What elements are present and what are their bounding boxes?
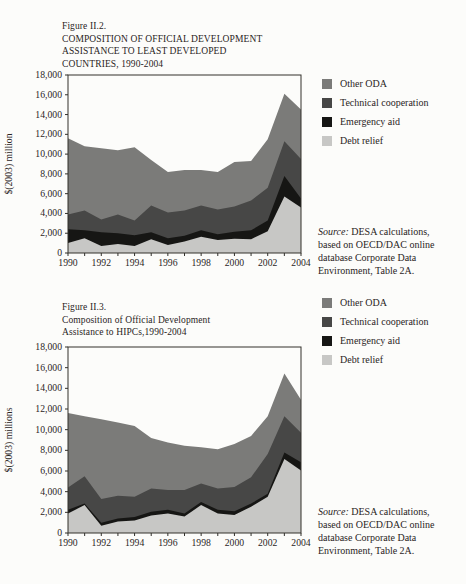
y-tick-label: 2,000 bbox=[40, 227, 62, 238]
x-tick-label: 2002 bbox=[258, 257, 278, 268]
legend-label: Emergency aid bbox=[340, 116, 400, 127]
y-tick-label: 8,000 bbox=[40, 444, 62, 455]
legend-item-other-oda: Other ODA bbox=[322, 297, 428, 308]
legend-label: Emergency aid bbox=[340, 335, 400, 346]
source-text: DESA calculations, bbox=[351, 226, 429, 237]
legend-item-debt-relief: Debt relief bbox=[322, 354, 428, 365]
source-line: Environment, Table 2A. bbox=[318, 264, 466, 277]
source-label: Source: bbox=[318, 506, 349, 517]
y-tick-label: 16,000 bbox=[35, 362, 62, 373]
figure2-legend: Other ODATechnical cooperationEmergency … bbox=[322, 78, 428, 146]
figure2-title-line: Figure II.2. bbox=[62, 20, 318, 33]
source-line: based on OECD/DAC online bbox=[318, 238, 466, 251]
y-tick-label: 12,000 bbox=[35, 403, 62, 414]
legend-swatch-icon bbox=[322, 117, 332, 127]
x-tick-label: 2000 bbox=[225, 257, 245, 268]
legend-item-other-oda: Other ODA bbox=[322, 78, 428, 89]
source-label: Source: bbox=[318, 226, 349, 237]
x-tick-label: 1994 bbox=[125, 537, 145, 548]
source-line: Source: DESA calculations, bbox=[318, 225, 466, 238]
x-tick-label: 2004 bbox=[291, 257, 311, 268]
x-tick-label: 1994 bbox=[125, 257, 145, 268]
x-tick-label: 2000 bbox=[225, 537, 245, 548]
legend-swatch-icon bbox=[322, 79, 332, 89]
scanned-report-page: { "page": { "background": "#fcfcfa", "te… bbox=[0, 0, 466, 584]
legend-item-technical-cooperation: Technical cooperation bbox=[322, 97, 428, 108]
source-line: Environment, Table 2A. bbox=[318, 544, 466, 557]
legend-label: Other ODA bbox=[340, 78, 387, 89]
figure3-source-note: Source: DESA calculations, based on OECD… bbox=[318, 505, 466, 557]
legend-label: Debt relief bbox=[340, 354, 383, 365]
legend-item-emergency-aid: Emergency aid bbox=[322, 116, 428, 127]
y-tick-label: 6,000 bbox=[40, 188, 62, 199]
y-tick-label: 2,000 bbox=[40, 506, 62, 517]
figure3-title-line: Composition of Official Development bbox=[62, 314, 318, 327]
x-tick-label: 1992 bbox=[92, 257, 112, 268]
legend-swatch-icon bbox=[322, 298, 332, 308]
legend-swatch-icon bbox=[322, 336, 332, 346]
y-tick-label: 10,000 bbox=[35, 424, 62, 435]
ldc-stacked-area-chart: 02,0004,0006,0008,00010,00012,00014,0001… bbox=[0, 60, 320, 275]
legend-swatch-icon bbox=[322, 355, 332, 365]
y-tick-label: 12,000 bbox=[35, 128, 62, 139]
x-tick-label: 1996 bbox=[158, 537, 178, 548]
source-line: database Corporate Data bbox=[318, 531, 466, 544]
y-tick-label: 10,000 bbox=[35, 148, 62, 159]
legend-label: Technical cooperation bbox=[340, 97, 428, 108]
figure2-title-line: COMPOSITION OF OFFICIAL DEVELOPMENT bbox=[62, 33, 318, 46]
x-tick-label: 1998 bbox=[191, 257, 211, 268]
x-tick-label: 1990 bbox=[58, 257, 78, 268]
source-line: database Corporate Data bbox=[318, 251, 466, 264]
legend-swatch-icon bbox=[322, 98, 332, 108]
legend-item-debt-relief: Debt relief bbox=[322, 135, 428, 146]
y-tick-label: 14,000 bbox=[35, 382, 62, 393]
legend-label: Other ODA bbox=[340, 297, 387, 308]
y-tick-label: 16,000 bbox=[35, 89, 62, 100]
legend-swatch-icon bbox=[322, 136, 332, 146]
source-line: Source: DESA calculations, bbox=[318, 505, 466, 518]
legend-item-technical-cooperation: Technical cooperation bbox=[322, 316, 428, 327]
figure2-source-note: Source: DESA calculations, based on OECD… bbox=[318, 225, 466, 277]
legend-item-emergency-aid: Emergency aid bbox=[322, 335, 428, 346]
hipc-stacked-area-chart: 02,0004,0006,0008,00010,00012,00014,0001… bbox=[0, 333, 320, 555]
legend-swatch-icon bbox=[322, 317, 332, 327]
x-tick-label: 2004 bbox=[291, 537, 311, 548]
y-tick-label: 4,000 bbox=[40, 207, 62, 218]
y-tick-label: 4,000 bbox=[40, 486, 62, 497]
x-tick-label: 1990 bbox=[58, 537, 78, 548]
y-tick-label: 14,000 bbox=[35, 109, 62, 120]
y-tick-label: 6,000 bbox=[40, 465, 62, 476]
y-tick-label: 8,000 bbox=[40, 168, 62, 179]
legend-label: Debt relief bbox=[340, 135, 383, 146]
x-tick-label: 1992 bbox=[92, 537, 112, 548]
legend-label: Technical cooperation bbox=[340, 316, 428, 327]
y-axis-title: $(2003) million bbox=[3, 133, 15, 194]
y-tick-label: 18,000 bbox=[35, 341, 62, 352]
figure3-title-line: Figure II.3. bbox=[62, 301, 318, 314]
y-axis-title: $(2003) millions bbox=[3, 407, 15, 472]
source-text: DESA calculations, bbox=[351, 506, 429, 517]
figure3-legend: Other ODATechnical cooperationEmergency … bbox=[322, 297, 428, 365]
x-tick-label: 2002 bbox=[258, 537, 278, 548]
source-line: based on OECD/DAC online bbox=[318, 518, 466, 531]
x-tick-label: 1996 bbox=[158, 257, 178, 268]
x-tick-label: 1998 bbox=[191, 537, 211, 548]
y-tick-label: 18,000 bbox=[35, 69, 62, 80]
figure2-title-line: ASSISTANCE TO LEAST DEVELOPED bbox=[62, 45, 318, 58]
